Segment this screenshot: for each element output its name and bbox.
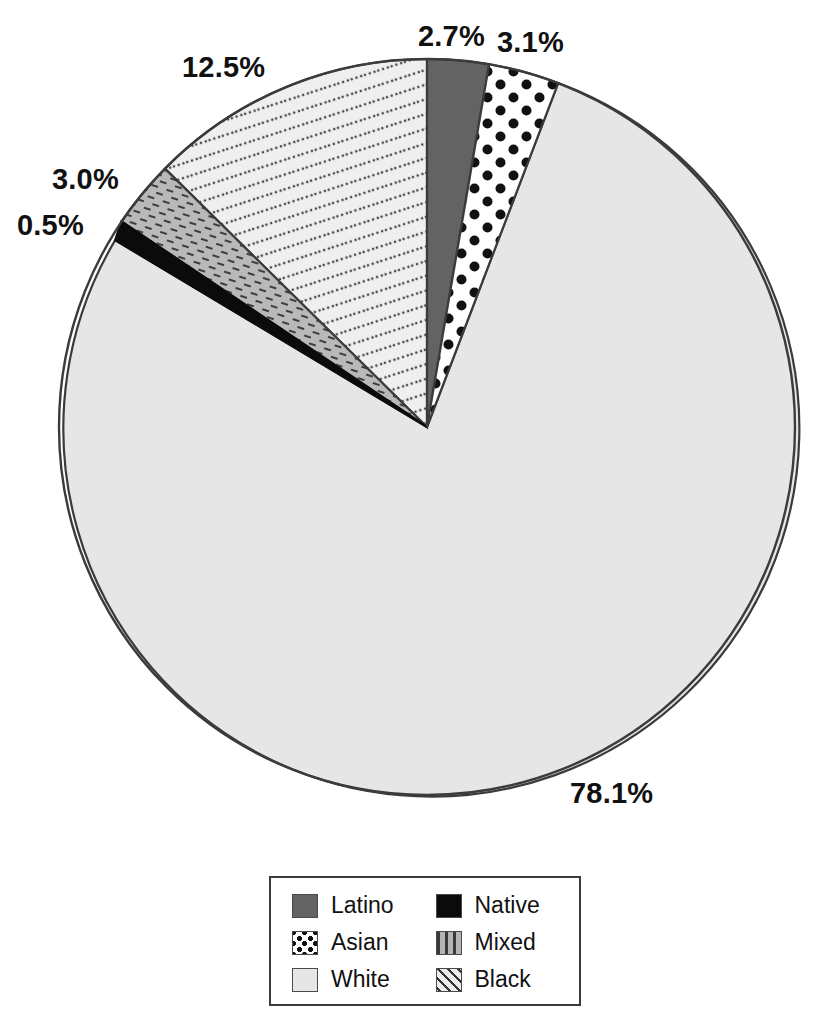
legend-swatch-mixed	[436, 931, 462, 955]
data-label-asian: 3.1%	[497, 26, 564, 59]
legend-label-asian: Asian	[331, 931, 389, 954]
data-label-mixed: 3.0%	[52, 163, 119, 196]
legend-item-black[interactable]: Black	[436, 968, 580, 992]
legend-item-mixed[interactable]: Mixed	[436, 931, 580, 955]
legend-swatch-black	[436, 968, 462, 992]
legend-swatch-latino	[292, 894, 318, 918]
legend-label-black: Black	[475, 968, 531, 991]
legend-label-white: White	[331, 968, 390, 991]
legend-item-latino[interactable]: Latino	[292, 894, 436, 918]
pie-chart-canvas	[0, 0, 821, 1029]
data-label-white: 78.1%	[570, 777, 653, 810]
pie-chart: 2.7% 3.1% 12.5% 3.0% 0.5% 78.1% Latino N…	[0, 0, 821, 1029]
data-label-latino: 2.7%	[418, 20, 485, 53]
legend-swatch-asian	[292, 931, 318, 955]
legend-label-native: Native	[475, 894, 540, 917]
legend-item-asian[interactable]: Asian	[292, 931, 436, 955]
data-label-native: 0.5%	[17, 209, 84, 242]
legend-label-mixed: Mixed	[475, 931, 536, 954]
legend: Latino Native Asian Mixed White Black	[269, 876, 581, 1006]
legend-item-native[interactable]: Native	[436, 894, 580, 918]
legend-item-white[interactable]: White	[292, 968, 436, 992]
legend-swatch-native	[436, 894, 462, 918]
data-label-black: 12.5%	[182, 51, 265, 84]
legend-label-latino: Latino	[331, 894, 394, 917]
legend-swatch-white	[292, 968, 318, 992]
